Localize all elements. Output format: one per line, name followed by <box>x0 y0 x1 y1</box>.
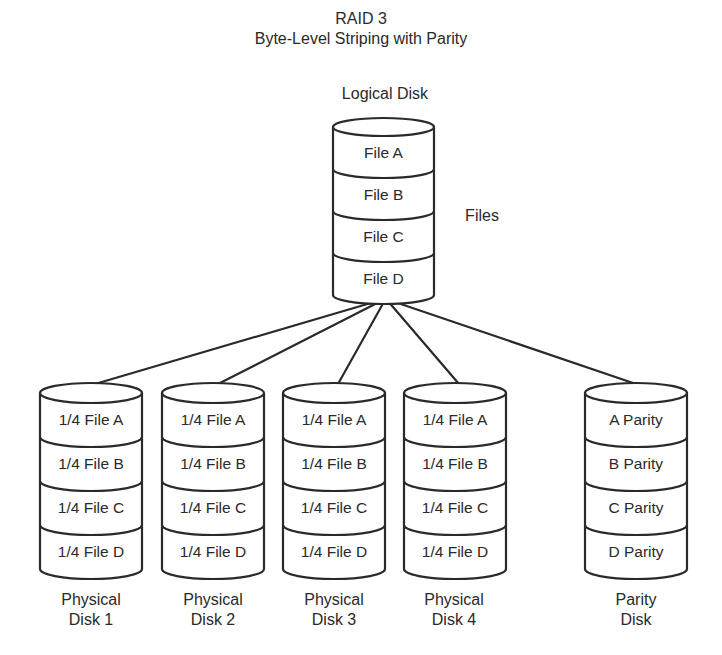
disk-segment-label: 1/4 File B <box>58 455 123 472</box>
label-line2: Disk <box>581 610 691 630</box>
disk-segment-label: 1/4 File B <box>180 455 245 472</box>
connector-disk-1 <box>95 300 381 384</box>
disk-top <box>283 383 385 403</box>
label-line1: Physical <box>279 590 389 610</box>
physical-disk-1: 1/4 File A1/4 File B1/4 File C1/4 File D <box>40 383 142 579</box>
physical-disk-1-label: Physical Disk 1 <box>36 590 146 630</box>
label-line2: Disk 1 <box>36 610 146 630</box>
label-line2: Disk 3 <box>279 610 389 630</box>
disk-top <box>40 383 142 403</box>
connector-lines <box>95 300 636 384</box>
parity-disk: A ParityB ParityC ParityD Parity <box>585 383 687 579</box>
disk-segment-label: 1/4 File A <box>181 411 246 428</box>
raid3-diagram: File AFile BFile CFile D 1/4 File A1/4 F… <box>0 0 722 655</box>
disk-segment-label: 1/4 File A <box>59 411 124 428</box>
disk-segment-label: 1/4 File A <box>423 411 488 428</box>
disk-segment-label: 1/4 File C <box>301 499 367 516</box>
physical-disk-2: 1/4 File A1/4 File B1/4 File C1/4 File D <box>162 383 264 579</box>
physical-disk-3: 1/4 File A1/4 File B1/4 File C1/4 File D <box>283 383 385 579</box>
disk-segment-label: File B <box>364 186 404 203</box>
label-line1: Physical <box>158 590 268 610</box>
physical-disk-3-label: Physical Disk 3 <box>279 590 389 630</box>
disk-segment-label: 1/4 File D <box>301 543 367 560</box>
disk-segment-label: 1/4 File C <box>180 499 246 516</box>
disk-segment-label: 1/4 File D <box>58 543 124 560</box>
label-line1: Parity <box>581 590 691 610</box>
disk-segment-label: 1/4 File C <box>58 499 124 516</box>
disk-segment-label: File D <box>363 270 403 287</box>
connector-disk-2 <box>218 300 383 384</box>
physical-disk-4: 1/4 File A1/4 File B1/4 File C1/4 File D <box>404 383 506 579</box>
physical-disk-2-label: Physical Disk 2 <box>158 590 268 630</box>
physical-disk-4-label: Physical Disk 4 <box>399 590 509 630</box>
disk-top <box>404 383 506 403</box>
logical-disk: File AFile BFile CFile D <box>333 118 434 304</box>
disk-segment-label: 1/4 File D <box>180 543 246 560</box>
disk-top <box>585 383 687 403</box>
disk-segment-label: B Parity <box>609 455 664 472</box>
label-line1: Physical <box>399 590 509 610</box>
disk-top <box>162 383 264 403</box>
connector-parity-disk <box>389 300 636 384</box>
disk-segment-label: 1/4 File B <box>301 455 366 472</box>
disk-segment-label: File A <box>364 144 403 161</box>
disk-segment-label: D Parity <box>608 543 663 560</box>
label-line2: Disk 2 <box>158 610 268 630</box>
connector-disk-3 <box>338 300 385 384</box>
disk-segment-label: 1/4 File B <box>422 455 487 472</box>
disk-segment-label: A Parity <box>609 411 663 428</box>
label-line2: Disk 4 <box>399 610 509 630</box>
disk-segment-label: 1/4 File A <box>302 411 367 428</box>
disk-segment-label: File C <box>363 228 403 245</box>
disk-segment-label: 1/4 File C <box>422 499 488 516</box>
label-line1: Physical <box>36 590 146 610</box>
disk-top <box>333 118 434 136</box>
parity-disk-label: Parity Disk <box>581 590 691 630</box>
disk-segment-label: 1/4 File D <box>422 543 488 560</box>
disk-segment-label: C Parity <box>608 499 663 516</box>
